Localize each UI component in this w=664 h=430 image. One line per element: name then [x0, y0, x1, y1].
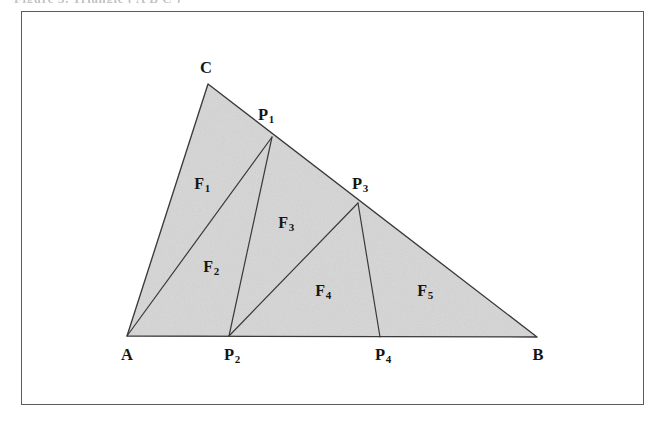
point-label-p4: P4 [375, 347, 391, 364]
region-label-f4: F4 [315, 283, 331, 299]
point-label-p2: P2 [224, 347, 240, 364]
shaded-triangle-body [127, 84, 537, 337]
triangle-subdivision-diagram [0, 0, 664, 430]
point-label-b: B [532, 347, 543, 364]
figure-root: Figure 3. Triangle ( A B C ) [0, 0, 664, 430]
region-label-f3: F3 [278, 215, 294, 231]
point-label-a: A [121, 347, 133, 364]
region-label-f2: F2 [203, 259, 219, 275]
triangle-abc-grain [127, 84, 537, 337]
region-label-f1: F1 [194, 176, 210, 192]
point-label-p1: P1 [258, 107, 274, 124]
region-label-f5: F5 [417, 283, 433, 299]
point-label-p3: P3 [352, 176, 368, 193]
point-label-c: C [200, 60, 212, 77]
